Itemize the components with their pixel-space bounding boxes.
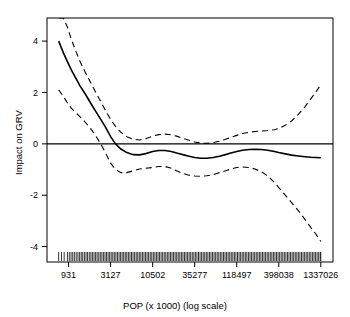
svg-text:931: 931 xyxy=(61,270,76,280)
chart-axes xyxy=(42,18,333,267)
chart-container: 931312710502352771184973980381337026-4-2… xyxy=(0,0,350,317)
svg-text:4: 4 xyxy=(33,36,38,46)
svg-text:118497: 118497 xyxy=(222,270,251,280)
svg-text:35277: 35277 xyxy=(182,270,207,280)
svg-text:2: 2 xyxy=(33,88,38,98)
series-upper-confidence-band xyxy=(59,18,321,143)
svg-text:-2: -2 xyxy=(30,190,38,200)
svg-text:398038: 398038 xyxy=(264,270,294,280)
svg-text:-4: -4 xyxy=(30,242,38,252)
svg-text:3127: 3127 xyxy=(101,270,121,280)
series-lower-confidence-band xyxy=(59,90,321,242)
y-axis-label: Impact on GRV xyxy=(13,110,24,175)
x-axis-label: POP (x 1000) (log scale) xyxy=(0,300,350,311)
rug-plot xyxy=(59,252,321,261)
chart-series xyxy=(59,18,321,241)
chart-tick-labels: 931312710502352771184973980381337026-4-2… xyxy=(30,36,338,280)
svg-text:10502: 10502 xyxy=(140,270,165,280)
svg-text:1337026: 1337026 xyxy=(303,270,338,280)
chart-plot-area: 931312710502352771184973980381337026-4-2… xyxy=(0,0,350,317)
svg-text:0: 0 xyxy=(33,139,38,149)
